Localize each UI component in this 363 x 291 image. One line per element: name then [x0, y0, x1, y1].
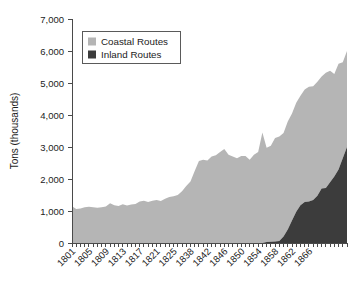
- y-tick-label: 2,000: [40, 174, 64, 185]
- y-tick-label: 5,000: [40, 78, 64, 89]
- y-tick-label: 1,000: [40, 206, 64, 217]
- y-tick-label: 4,000: [40, 110, 64, 121]
- legend-swatch-coastal-routes: [88, 38, 96, 46]
- stacked-area-chart: 01,0002,0003,0004,0005,0006,0007,000 180…: [0, 0, 363, 291]
- y-axis-title: Tons (thousands): [9, 93, 20, 170]
- legend-label-inland-routes: Inland Routes: [101, 49, 162, 60]
- y-tick-label: 3,000: [40, 142, 64, 153]
- chart-container: 01,0002,0003,0004,0005,0006,0007,000 180…: [0, 0, 363, 291]
- y-tick-label: 0: [59, 238, 64, 249]
- y-tick-label: 6,000: [40, 46, 64, 57]
- y-tick-label: 7,000: [40, 14, 64, 25]
- legend-swatch-inland-routes: [88, 51, 96, 59]
- legend: Coastal Routes Inland Routes: [82, 31, 180, 63]
- legend-label-coastal-routes: Coastal Routes: [101, 36, 168, 47]
